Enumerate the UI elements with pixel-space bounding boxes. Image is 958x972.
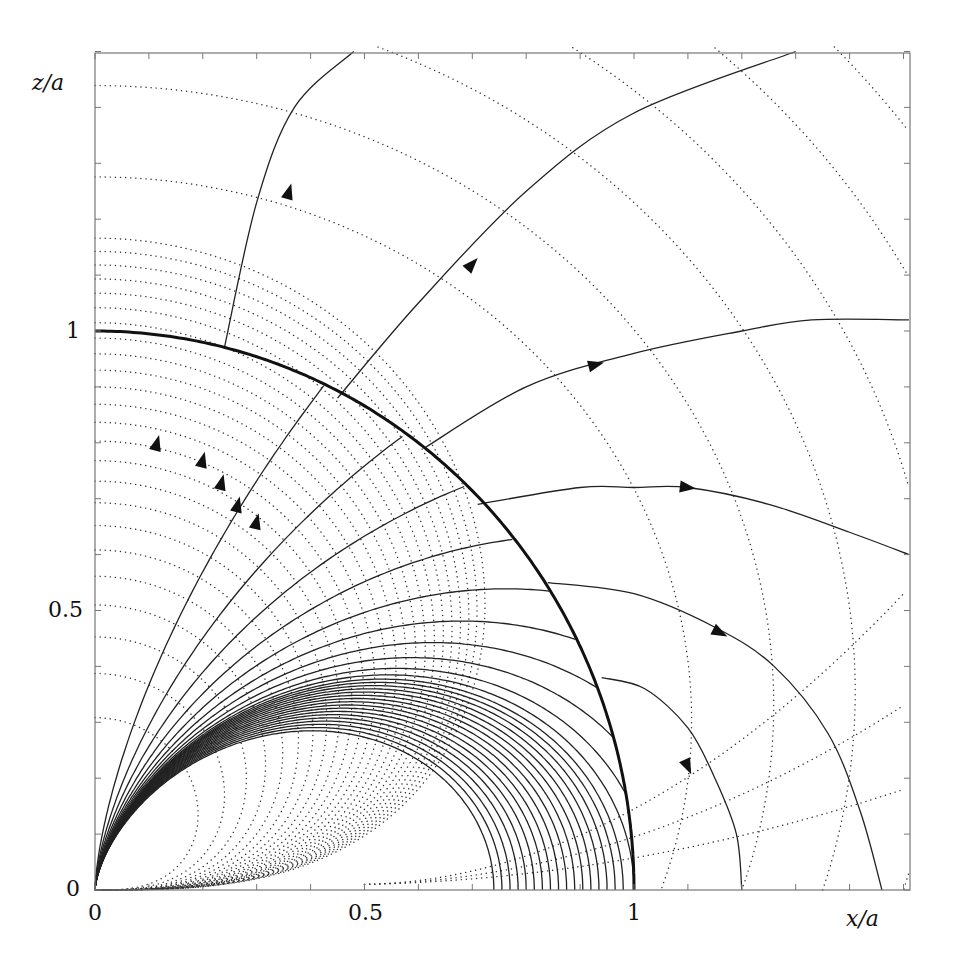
arrow-icon [230, 497, 242, 514]
equipotential-line [365, 593, 905, 884]
x-tick-1: 1 [627, 900, 641, 925]
arrow-icon [587, 361, 604, 373]
exterior-line-2 [338, 52, 796, 399]
interior-field-line [95, 711, 542, 890]
y-tick-0: 0 [66, 876, 80, 901]
equipotential-line [95, 441, 364, 890]
y-axis-label: z/a [32, 70, 64, 95]
exterior-line-3 [424, 319, 909, 448]
x-tick-0: 0 [88, 900, 102, 925]
outer-equipotential-line [715, 48, 908, 276]
equipotential-line [95, 503, 327, 890]
interior-field-lines [95, 386, 634, 890]
x-tick-0.5: 0.5 [348, 900, 383, 925]
equipotential-line [95, 718, 198, 890]
arrow-icon [679, 757, 691, 774]
interior-field-line [95, 682, 615, 890]
equipotential-line [95, 387, 396, 890]
y-tick-0.5: 0.5 [48, 597, 83, 622]
arrow-icon [149, 435, 161, 452]
equipotential-line [95, 550, 298, 890]
arrow-icon [249, 513, 261, 530]
arrow-icon [195, 452, 207, 469]
exterior-line-4 [478, 486, 909, 554]
arrow-icon [679, 481, 696, 493]
equipotential-line [95, 354, 416, 890]
interior-field-line [95, 731, 494, 890]
interior-field-line [95, 702, 567, 890]
interior-field-line [95, 728, 502, 890]
arrow-icon [462, 258, 477, 274]
interior-field-line [95, 705, 559, 890]
field-line-plot [0, 0, 958, 972]
interior-field-line [95, 724, 510, 890]
arrow-icon [281, 184, 293, 201]
equipotential-line [95, 404, 386, 890]
x-axis-label: x/a [846, 906, 879, 931]
interior-field-line [95, 708, 551, 890]
equipotential-line [95, 526, 313, 890]
outer-equipotential-line [573, 48, 909, 890]
interior-field-line [95, 686, 607, 890]
exterior-line-1 [224, 52, 353, 348]
equipotential-line [95, 308, 443, 890]
arrow-icon [214, 474, 226, 491]
outer-equipotential-line [834, 47, 908, 131]
equipotential-line [95, 461, 352, 890]
y-tick-1: 1 [66, 318, 80, 343]
exterior-field-lines [224, 52, 909, 891]
interior-field-line [95, 679, 623, 890]
outer-equipotential-line [95, 86, 774, 891]
plot-frame [95, 53, 910, 890]
